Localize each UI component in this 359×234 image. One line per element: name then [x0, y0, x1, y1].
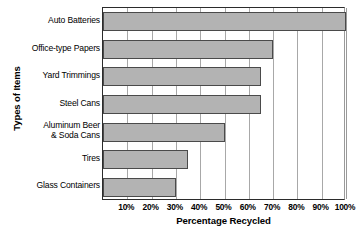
x-axis-tick-labels: 10%20%30%40%50%60%70%80%90%100% — [102, 202, 345, 215]
category-label-line: Tires — [14, 154, 100, 164]
category-label: Office-type Papers — [14, 44, 100, 54]
category-label: Tires — [14, 154, 100, 164]
x-tick-label: 100% — [328, 202, 359, 212]
category-label: Yard Trimmings — [14, 71, 100, 81]
category-label: Steel Cans — [14, 99, 100, 109]
recycling-bar-chart: Types of Items Auto BatteriesOffice-type… — [0, 0, 359, 234]
category-label: Auto Batteries — [14, 16, 100, 26]
category-label-line: & Soda Cans — [14, 131, 100, 141]
x-axis-title: Percentage Recycled — [102, 215, 345, 226]
bar[interactable] — [103, 67, 261, 86]
category-label-line: Glass Containers — [14, 181, 100, 191]
bar[interactable] — [103, 95, 261, 114]
category-label-line: Office-type Papers — [14, 44, 100, 54]
category-label-line: Auto Batteries — [14, 16, 100, 26]
bar[interactable] — [103, 123, 225, 142]
gridline-100pct — [346, 8, 347, 199]
category-label-line: Yard Trimmings — [14, 71, 100, 81]
bar[interactable] — [103, 178, 176, 197]
bar[interactable] — [103, 150, 188, 169]
category-label: Glass Containers — [14, 181, 100, 191]
plot-area — [102, 7, 345, 200]
bar[interactable] — [103, 40, 273, 59]
category-label: Aluminum Beer& Soda Cans — [14, 121, 100, 140]
bar[interactable] — [103, 12, 346, 31]
category-axis-labels: Auto BatteriesOffice-type PapersYard Tri… — [14, 7, 100, 200]
bars-layer — [103, 8, 344, 199]
category-label-line: Steel Cans — [14, 99, 100, 109]
